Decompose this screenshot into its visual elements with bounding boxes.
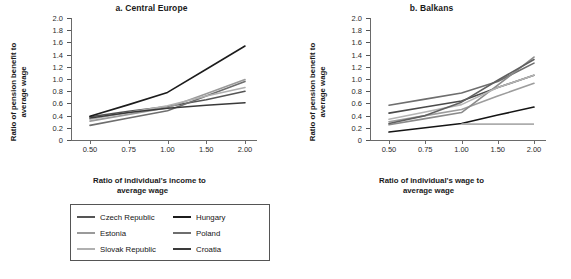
legend-swatch-icon bbox=[77, 216, 95, 218]
legend-item[interactable]: Estonia bbox=[77, 225, 169, 241]
x-axis-label-b: Ratio of individual's wage to average wa… bbox=[286, 176, 571, 196]
y-tick-label: 0 bbox=[358, 137, 362, 144]
legend-label: Estonia bbox=[100, 229, 126, 238]
legend-swatch-icon bbox=[77, 248, 95, 250]
legend-label: Slovak Republic bbox=[100, 245, 156, 254]
x-tick-label: 1.00 bbox=[454, 146, 469, 154]
y-axis-ticks-a: 00.20.40.60.81.01.21.41.61.82.0 bbox=[45, 18, 67, 140]
x-tick-mark bbox=[498, 140, 499, 144]
x-tick-mark bbox=[462, 140, 463, 144]
y-axis-label-b-line1: Ratio of pension benefit to bbox=[308, 43, 317, 141]
y-tick-label: 1.6 bbox=[53, 39, 63, 46]
x-tick-label: 2.00 bbox=[238, 146, 253, 154]
legend-central-europe: Czech RepublicHungaryEstoniaPolandSlovak… bbox=[70, 204, 270, 261]
y-tick-label: 1.4 bbox=[352, 51, 362, 58]
x-tick-mark bbox=[168, 140, 169, 144]
legend-item[interactable]: Croatia bbox=[173, 241, 265, 257]
plot-area-b: 00.20.40.60.81.01.21.41.61.82.0 0.500.75… bbox=[344, 18, 544, 158]
legend-item[interactable]: Czech Republic bbox=[77, 209, 169, 225]
series-line bbox=[389, 75, 534, 113]
legend-swatch-icon bbox=[173, 248, 191, 250]
x-axis-label-a-line1: Ratio of individual's income to bbox=[93, 176, 206, 185]
y-axis-label-b-line2: average wage bbox=[318, 66, 327, 117]
y-tick-label: 1.4 bbox=[53, 51, 63, 58]
y-tick-label: 0.8 bbox=[352, 88, 362, 95]
x-tick-label: 1.50 bbox=[490, 146, 505, 154]
legend-item[interactable]: Slovak Republic bbox=[77, 241, 169, 257]
legend-swatch-icon bbox=[77, 232, 95, 234]
y-tick-label: 0.8 bbox=[53, 88, 63, 95]
chart-panel-balkans: b. Balkans Ratio of pension benefit to a… bbox=[286, 0, 571, 279]
series-line bbox=[389, 63, 534, 105]
y-axis-label-a-line1: Ratio of pension benefit to bbox=[9, 43, 18, 141]
legend-label: Hungary bbox=[196, 213, 225, 222]
legend-item[interactable]: Hungary bbox=[173, 209, 265, 225]
y-axis-ticks-b: 00.20.40.60.81.01.21.41.61.82.0 bbox=[344, 18, 366, 140]
y-axis-label-a-line2: average wage bbox=[19, 66, 28, 117]
legend-item[interactable]: Poland bbox=[173, 225, 265, 241]
x-axis-label-b-line1: Ratio of individual's wage to bbox=[379, 176, 484, 185]
x-tick-mark bbox=[425, 140, 426, 144]
y-tick-label: 0.2 bbox=[352, 124, 362, 131]
legend-label: Poland bbox=[196, 229, 220, 238]
x-axis-line-b bbox=[370, 140, 546, 141]
legend-items-a: Czech RepublicHungaryEstoniaPolandSlovak… bbox=[77, 209, 265, 258]
series-canvas-a bbox=[72, 18, 255, 140]
y-tick-label: 0.4 bbox=[53, 112, 63, 119]
x-axis-label-a: Ratio of individual's income to average … bbox=[0, 176, 285, 196]
y-axis-label-a: Ratio of pension benefit to average wage bbox=[9, 22, 29, 162]
legend-label: Croatia bbox=[196, 245, 221, 254]
x-axis-label-a-line2: average wage bbox=[117, 186, 168, 195]
x-tick-mark bbox=[90, 140, 91, 144]
x-tick-label: 2.00 bbox=[527, 146, 542, 154]
y-tick-label: 1.8 bbox=[352, 27, 362, 34]
plot-area-a: 00.20.40.60.81.01.21.41.61.82.0 0.500.75… bbox=[45, 18, 255, 158]
y-axis-label-b: Ratio of pension benefit to average wage bbox=[308, 22, 328, 162]
x-tick-label: 0.75 bbox=[418, 146, 433, 154]
y-tick-label: 0.6 bbox=[352, 100, 362, 107]
panel-title-a: a. Central Europe bbox=[0, 3, 285, 13]
y-tick-label: 0 bbox=[59, 137, 63, 144]
x-tick-label: 1.50 bbox=[199, 146, 214, 154]
x-tick-mark bbox=[245, 140, 246, 144]
legend-swatch-icon bbox=[173, 216, 191, 218]
y-tick-label: 2.0 bbox=[53, 15, 63, 22]
y-tick-label: 1.2 bbox=[352, 63, 362, 70]
x-tick-mark bbox=[129, 140, 130, 144]
x-tick-mark bbox=[534, 140, 535, 144]
y-tick-label: 1.0 bbox=[352, 76, 362, 83]
x-tick-label: 0.50 bbox=[83, 146, 98, 154]
y-tick-label: 1.0 bbox=[53, 76, 63, 83]
y-tick-label: 1.6 bbox=[352, 39, 362, 46]
y-tick-label: 0.2 bbox=[53, 124, 63, 131]
y-tick-label: 0.6 bbox=[53, 100, 63, 107]
chart-panel-central-europe: a. Central Europe Ratio of pension benef… bbox=[0, 0, 285, 279]
x-axis-line-a bbox=[71, 140, 257, 141]
x-tick-label: 0.50 bbox=[382, 146, 397, 154]
y-tick-label: 1.8 bbox=[53, 27, 63, 34]
x-tick-mark bbox=[389, 140, 390, 144]
legend-swatch-icon bbox=[173, 232, 191, 234]
series-canvas-b bbox=[371, 18, 544, 140]
legend-label: Czech Republic bbox=[100, 213, 155, 222]
panel-title-b: b. Balkans bbox=[286, 3, 571, 13]
x-tick-label: 1.00 bbox=[160, 146, 175, 154]
y-tick-label: 2.0 bbox=[352, 15, 362, 22]
x-tick-mark bbox=[206, 140, 207, 144]
x-axis-label-b-line2: average wage bbox=[403, 186, 454, 195]
y-tick-label: 0.4 bbox=[352, 112, 362, 119]
x-tick-label: 0.75 bbox=[121, 146, 136, 154]
y-tick-label: 1.2 bbox=[53, 63, 63, 70]
